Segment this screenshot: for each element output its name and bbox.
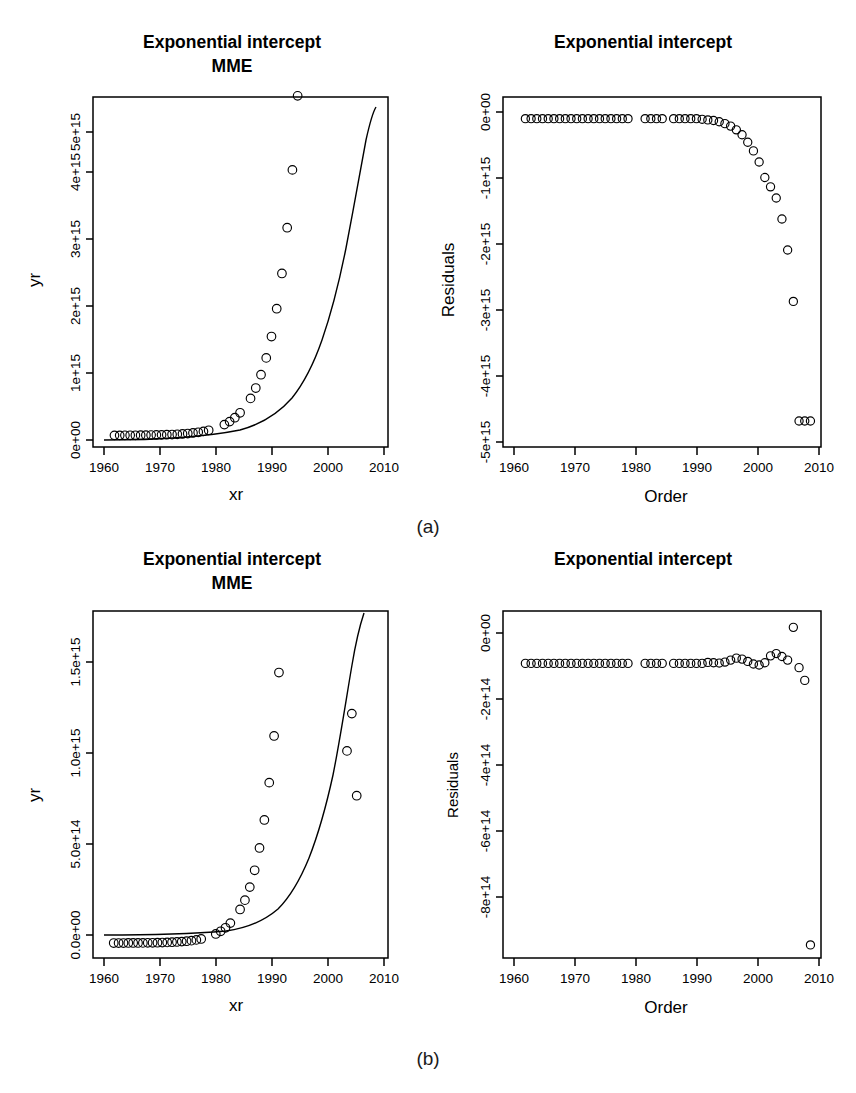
y-tick-label: -6e+14 xyxy=(478,809,493,852)
data-point xyxy=(260,816,269,825)
data-point xyxy=(270,732,279,741)
x-tick-label: 2000 xyxy=(313,460,343,475)
data-point xyxy=(766,183,774,191)
data-point xyxy=(257,370,266,379)
data-point xyxy=(744,138,752,146)
subfigure-caption-b: (b) xyxy=(0,1048,856,1070)
data-point xyxy=(795,664,803,672)
data-point xyxy=(197,935,206,944)
data-point xyxy=(236,905,245,914)
y-tick-label: -4e+15 xyxy=(478,355,493,397)
data-point xyxy=(343,747,352,756)
y-tick-label: 1e+15 xyxy=(68,354,83,392)
x-axis-ticks xyxy=(514,447,819,455)
y-tick-label: 5.0e+14 xyxy=(68,819,83,869)
data-point xyxy=(789,623,797,631)
data-point xyxy=(761,173,769,181)
x-tick-label: 1970 xyxy=(560,971,590,986)
data-point xyxy=(698,659,706,667)
x-tick-label: 1960 xyxy=(499,971,529,986)
data-point xyxy=(755,158,763,166)
plot-frame xyxy=(503,611,821,958)
plot-bottom-left: Exponential intercept MME 0.0e+00 5.0e+1… xyxy=(0,535,428,1035)
x-axis-label: xr xyxy=(229,996,244,1015)
data-point xyxy=(658,115,666,123)
plot-title-line1: Exponential intercept xyxy=(554,32,732,52)
x-axis-label: xr xyxy=(229,485,244,504)
plot-title-line2: MME xyxy=(212,56,253,76)
data-point xyxy=(801,676,809,684)
x-tick-label: 1960 xyxy=(499,460,529,475)
y-tick-label: 1.0e+15 xyxy=(68,728,83,777)
data-point xyxy=(293,92,302,101)
x-axis-label: Order xyxy=(644,998,688,1017)
data-point xyxy=(278,269,287,278)
x-tick-label: 2000 xyxy=(313,971,343,986)
y-tick-label: 0.0e+00 xyxy=(68,910,83,959)
plot-frame xyxy=(503,97,821,447)
x-tick-label: 1970 xyxy=(145,971,175,986)
x-tick-label: 2010 xyxy=(804,460,834,475)
y-tick-label: -2e+15 xyxy=(478,223,493,265)
data-point xyxy=(272,304,281,313)
x-tick-label: 1990 xyxy=(257,971,287,986)
plot-title-line2: MME xyxy=(212,573,253,593)
x-tick-label: 2000 xyxy=(743,460,773,475)
panel-top-left: Exponential intercept MME 0e+00 1e+15 2e… xyxy=(0,0,428,500)
y-tick-label: 0e+00 xyxy=(478,93,493,131)
data-point xyxy=(236,409,245,418)
data-points xyxy=(521,115,814,426)
data-point xyxy=(624,659,632,667)
data-points xyxy=(521,623,814,949)
x-tick-label: 1980 xyxy=(621,460,651,475)
data-point xyxy=(715,659,723,667)
x-tick-label: 1990 xyxy=(682,460,712,475)
data-point xyxy=(658,659,666,667)
data-point xyxy=(772,194,780,202)
y-axis-label: Residuals xyxy=(439,243,458,318)
x-tick-label: 2010 xyxy=(369,460,399,475)
y-tick-label: 2e+15 xyxy=(68,287,83,325)
data-point xyxy=(778,215,786,223)
y-tick-label: 5e+15 xyxy=(68,113,83,151)
plot-title-line1: Exponential intercept xyxy=(554,549,732,569)
y-axis-ticks xyxy=(86,662,93,935)
data-point xyxy=(721,658,729,666)
plot-top-left: Exponential intercept MME 0e+00 1e+15 2e… xyxy=(0,0,428,500)
data-point xyxy=(709,116,717,124)
x-axis-ticks xyxy=(514,958,819,966)
data-point xyxy=(265,778,274,787)
x-tick-label: 1980 xyxy=(201,971,231,986)
fitted-curve xyxy=(104,107,376,440)
y-tick-label: 0e+00 xyxy=(68,421,83,459)
panel-top-right: Exponential intercept 0e+00 -1e+15 -2e+1… xyxy=(428,0,856,500)
panel-bottom-left: Exponential intercept MME 0.0e+00 5.0e+1… xyxy=(0,535,428,1035)
y-tick-label: -1e+15 xyxy=(478,157,493,199)
data-point xyxy=(204,426,213,435)
x-axis-ticks xyxy=(104,958,384,966)
y-tick-label: -3e+15 xyxy=(478,289,493,331)
data-point xyxy=(727,656,735,664)
data-point xyxy=(789,297,797,305)
data-point xyxy=(245,883,254,892)
y-axis-ticks xyxy=(496,112,503,442)
data-point xyxy=(352,791,361,800)
x-tick-label: 1980 xyxy=(201,460,231,475)
data-point xyxy=(267,332,276,341)
x-tick-label: 1970 xyxy=(560,460,590,475)
y-axis-ticks xyxy=(496,633,503,897)
data-point xyxy=(211,930,220,939)
y-axis-label: yr xyxy=(25,788,44,803)
data-point xyxy=(255,844,264,853)
data-point xyxy=(749,147,757,155)
data-points xyxy=(110,92,302,440)
y-tick-label: -4e+14 xyxy=(478,743,493,786)
y-tick-label: -2e+14 xyxy=(478,677,493,720)
fitted-curve xyxy=(104,613,364,935)
y-axis-ticks xyxy=(86,132,93,440)
data-point xyxy=(715,118,723,126)
data-point xyxy=(806,417,814,425)
x-tick-label: 1990 xyxy=(257,460,287,475)
x-tick-label: 2010 xyxy=(369,971,399,986)
plot-top-right: Exponential intercept 0e+00 -1e+15 -2e+1… xyxy=(428,0,856,500)
